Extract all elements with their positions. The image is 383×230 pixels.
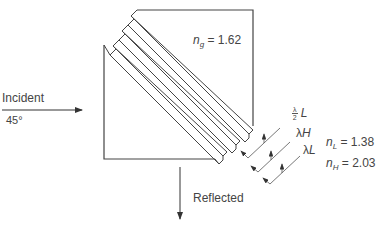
glass-index-subscript: g (200, 40, 204, 49)
high-index-value: = 2.03 (342, 156, 376, 170)
upper-prism (137, 10, 253, 126)
low-index-value: = 1.38 (340, 135, 374, 149)
low-index-subscript: L (333, 142, 337, 151)
incident-angle: 45° (6, 115, 23, 126)
reflected-label: Reflected (193, 192, 244, 204)
layer-label-wave-low: λL (303, 144, 316, 156)
high-index-label: nH = 2.03 (326, 157, 376, 169)
glass-index-value: = 1.62 (207, 33, 241, 47)
high-index-symbol: n (326, 156, 333, 170)
layer-dimension-markers (241, 128, 300, 184)
layer-label-wave-high: λH (296, 127, 311, 139)
glass-index-label: ng = 1.62 (193, 34, 241, 46)
low-index-label: nL = 1.38 (326, 136, 374, 148)
half-wave-fraction: λ2 (292, 106, 298, 121)
incident-label: Incident (2, 92, 44, 104)
high-index-subscript: H (333, 163, 339, 172)
beam-splitter-diagram (0, 0, 383, 230)
layer-label-half-wave-low: λ2 L (292, 106, 308, 121)
low-index-symbol: n (326, 135, 333, 149)
glass-index-symbol: n (193, 33, 200, 47)
